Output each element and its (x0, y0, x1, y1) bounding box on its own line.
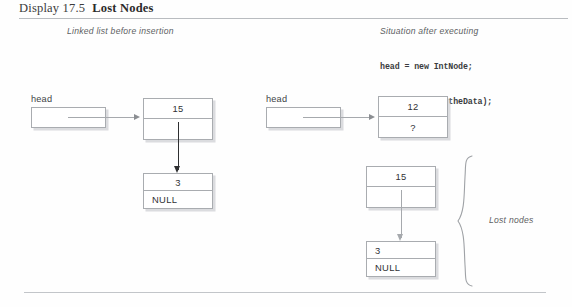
right-head-to-node1-line (303, 117, 372, 118)
right-head-label: head (266, 94, 287, 104)
page-title: Display 17.5Lost Nodes (19, 1, 154, 16)
left-node-15-data: 15 (144, 99, 212, 119)
header-divider (19, 18, 568, 19)
right-diagram-caption: Situation after executing (380, 26, 478, 36)
display-title: Lost Nodes (92, 1, 153, 15)
lost-node1-to-node2-arrowhead (397, 234, 403, 241)
left-head-to-node1-arrowhead (134, 114, 140, 120)
right-node-12-link: ? (379, 117, 447, 137)
left-node1-to-node2-arrowhead (174, 166, 180, 173)
lost-node-3-link: NULL (367, 259, 435, 276)
left-node-3-data: 3 (144, 174, 212, 191)
code-line-1: head = new IntNode; (380, 61, 492, 73)
right-head-to-node1-arrowhead (369, 114, 375, 120)
lost-nodes-brace (456, 155, 482, 291)
left-node-3-link: NULL (144, 191, 212, 208)
right-node-12: 12 ? (378, 96, 448, 138)
figure-page: Display 17.5Lost Nodes Linked list befor… (0, 0, 572, 307)
left-head-label: head (31, 94, 52, 104)
lost-node-3: 3 NULL (366, 241, 436, 277)
display-number: Display 17.5 (19, 1, 85, 15)
lost-node-3-data: 3 (367, 242, 435, 259)
left-diagram-caption: Linked list before insertion (67, 26, 174, 36)
lost-node-15-data: 15 (367, 167, 435, 187)
right-node-12-data: 12 (379, 97, 447, 117)
left-head-to-node1-line (68, 117, 137, 118)
lost-node1-to-node2-line (401, 190, 402, 238)
footer-divider (24, 292, 546, 293)
left-node1-to-node2-line (178, 122, 179, 170)
lost-nodes-label: Lost nodes (489, 215, 534, 225)
left-node-3: 3 NULL (143, 173, 213, 209)
